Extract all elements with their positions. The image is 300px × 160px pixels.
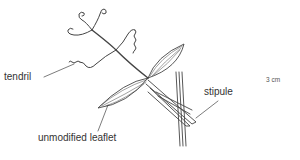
unmodified-leaflet-label: unmodified leaflet <box>38 133 116 143</box>
leaflet-lower <box>98 78 148 108</box>
tendril-leader-line <box>44 64 74 77</box>
scale-label: 3 cm <box>266 77 280 84</box>
stipule-label: stipule <box>204 87 233 97</box>
stipule-leader-line <box>196 101 218 118</box>
rachis <box>92 30 148 78</box>
diagram-canvas: tendril stipule unmodified leaflet 3 cm <box>0 0 300 160</box>
tendril-label: tendril <box>4 72 31 82</box>
tendril-middle <box>116 30 136 54</box>
tendril-upper-group <box>68 9 106 35</box>
stipules <box>146 80 196 126</box>
leaflet-leader-line <box>98 105 108 131</box>
tendril-lower <box>69 50 116 68</box>
